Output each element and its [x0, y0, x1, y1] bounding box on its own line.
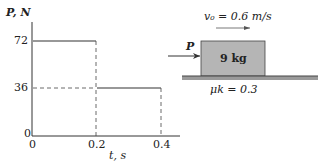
y-tick-72: 72 [14, 34, 28, 47]
friction-label: μk = 0.3 [210, 83, 258, 96]
velocity-label: v₀ = 0.6 m/s [204, 10, 272, 23]
x-tick-0.4: 0.4 [153, 138, 171, 151]
mass-label: 9 kg [220, 52, 247, 65]
ground [182, 76, 318, 80]
force-label: P [186, 40, 194, 53]
x-tick-0: 0 [29, 138, 36, 151]
y-axis-label: P, N [6, 6, 31, 19]
x-tick-0.2: 0.2 [88, 138, 106, 151]
y-tick-36: 36 [14, 81, 28, 94]
x-axis-label: t, s [109, 149, 126, 162]
velocity-arrowhead-icon [244, 26, 250, 30]
